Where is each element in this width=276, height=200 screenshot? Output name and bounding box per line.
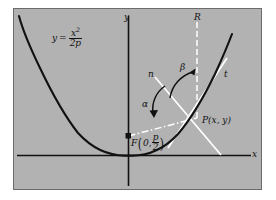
- parabola-equation-label: y=x22p: [52, 28, 82, 50]
- y-axis-label: y: [124, 13, 129, 22]
- equation-denominator: 2p: [69, 39, 83, 48]
- focus-y-fraction: p2: [152, 133, 160, 153]
- parabola-figure: y=x22p y x R n t β α F(0,p2) P(x, y): [0, 0, 276, 200]
- focus-name: F: [131, 138, 137, 148]
- x-axis-label: x: [252, 150, 257, 159]
- alpha-angle-arc: [153, 86, 165, 113]
- beta-arrow-head: [190, 69, 196, 76]
- tangent-label: t: [224, 70, 228, 79]
- beta-angle-label: β: [180, 63, 185, 72]
- equation-exponent: 2: [76, 26, 80, 33]
- focus-point-label: F(0,p2): [131, 134, 165, 154]
- reflected-ray-label: R: [194, 13, 201, 22]
- normal-label: n: [148, 70, 154, 79]
- equation-fraction: x22p: [69, 27, 83, 49]
- alpha-arrow-head: [150, 110, 159, 118]
- point-p-label: P(x, y): [202, 116, 231, 125]
- figure-canvas: [0, 0, 276, 200]
- focus-close-paren: ): [160, 138, 164, 150]
- equation-operator: =: [57, 33, 69, 43]
- focus-open-paren: (: [138, 138, 142, 150]
- beta-angle-arc: [170, 72, 193, 98]
- alpha-angle-label: α: [142, 100, 148, 109]
- focus-y-den: 2: [152, 143, 160, 152]
- point-p-coords: (x, y): [208, 115, 231, 125]
